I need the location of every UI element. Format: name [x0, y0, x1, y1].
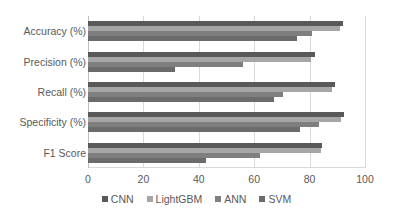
bar-row [88, 158, 365, 163]
legend-label: ANN [224, 194, 246, 205]
legend-item-svm[interactable]: SVM [259, 194, 291, 205]
legend-item-ann[interactable]: ANN [215, 194, 246, 205]
legend-item-cnn[interactable]: CNN [102, 194, 134, 205]
bar-group [88, 46, 365, 76]
legend-swatch-icon [102, 196, 108, 202]
bar-svm-4 [88, 158, 206, 163]
bar-group [88, 107, 365, 137]
bar-svm-1 [88, 67, 175, 72]
x-tick-60: 60 [248, 174, 260, 185]
x-tick-20: 20 [138, 174, 150, 185]
gridline-100 [365, 16, 366, 168]
x-tick-0: 0 [85, 174, 91, 185]
bar-row [88, 97, 365, 102]
bar-group [88, 138, 365, 168]
y-axis-label-2: Recall (%) [0, 87, 86, 98]
legend-item-lightgbm[interactable]: LightGBM [147, 194, 203, 205]
bar-svm-0 [88, 36, 297, 41]
plot-area [88, 16, 365, 168]
bar-row [88, 67, 365, 72]
bar-chart: Accuracy (%)Precision (%)Recall (%)Speci… [0, 0, 393, 224]
chart-legend: CNNLightGBMANNSVM [0, 194, 393, 205]
legend-swatch-icon [215, 196, 221, 202]
y-axis-label-3: Specificity (%) [0, 117, 86, 128]
legend-swatch-icon [259, 196, 265, 202]
x-tick-40: 40 [193, 174, 205, 185]
bar-svm-2 [88, 97, 274, 102]
y-axis-label-0: Accuracy (%) [0, 26, 86, 37]
bar-group [88, 16, 365, 46]
legend-label: SVM [268, 194, 291, 205]
bar-group [88, 77, 365, 107]
x-tick-80: 80 [304, 174, 316, 185]
legend-label: CNN [111, 194, 134, 205]
bar-svm-3 [88, 127, 300, 132]
bar-row [88, 36, 365, 41]
bar-row [88, 127, 365, 132]
legend-swatch-icon [147, 196, 153, 202]
y-axis-label-4: F1 Score [0, 148, 86, 159]
y-axis-label-1: Precision (%) [0, 57, 86, 68]
legend-label: LightGBM [156, 194, 203, 205]
x-tick-100: 100 [356, 174, 374, 185]
